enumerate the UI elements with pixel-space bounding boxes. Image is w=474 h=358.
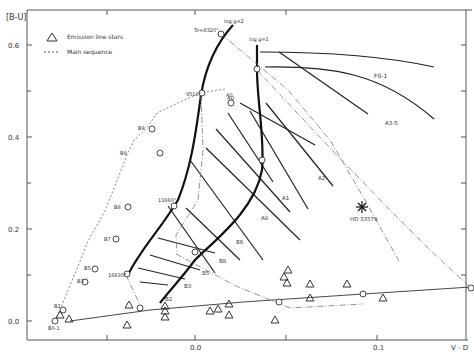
plot-frame	[27, 10, 472, 340]
svg-text:B6: B6	[236, 239, 244, 245]
svg-text:B8: B8	[114, 204, 121, 210]
y-tick-0.6: 0.6	[8, 42, 20, 50]
main-sequence-labels: B0-1 B2 B3 B5 B7 B8 B9 B9 A0	[48, 92, 233, 331]
x-tick-0.0: 0.0	[190, 344, 201, 352]
svg-text:B9: B9	[138, 125, 145, 131]
log-g1-curve	[160, 45, 263, 303]
svg-text:B8: B8	[219, 258, 227, 264]
svg-text:A0: A0	[261, 215, 269, 221]
svg-text:A0: A0	[226, 92, 233, 98]
svg-text:A3-5: A3-5	[385, 120, 398, 126]
svg-text:B3: B3	[77, 278, 84, 284]
svg-text:11660°: 11660°	[158, 197, 177, 203]
chart: [B-U] 0.6 0.4 0.2 0.0 0.0 0.1 V - D Emis…	[0, 0, 474, 358]
main-sequence-points	[52, 100, 234, 324]
y-tick-0.2: 0.2	[8, 226, 19, 234]
label-f0-1: F0-1	[374, 72, 387, 79]
svg-text:9510°: 9510°	[186, 91, 202, 97]
svg-text:B3: B3	[184, 283, 192, 289]
svg-text:Te=8320°: Te=8320°	[193, 27, 219, 33]
legend-emission-label: Emission line stars	[67, 33, 123, 40]
legend: Emission line stars Main sequence	[44, 33, 123, 56]
hd33579-label: HD 33579	[350, 216, 378, 222]
y-tick-0.4: 0.4	[8, 134, 20, 142]
svg-text:16830°: 16830°	[108, 272, 127, 278]
isogravity-labels: log g=2 log g=1 Te=8320° 9510° 11660° 16…	[108, 18, 269, 278]
svg-text:B9: B9	[120, 150, 127, 156]
legend-main-sequence-label: Main sequence	[67, 48, 112, 56]
svg-text:B7: B7	[104, 236, 111, 242]
curve-points	[124, 31, 474, 311]
dash-dot-lines	[126, 34, 471, 308]
svg-text:B5: B5	[84, 265, 91, 271]
emission-line-stars	[56, 266, 387, 328]
x-axis-label: V - D	[451, 344, 468, 352]
svg-text:B5: B5	[202, 270, 210, 276]
f-region-curves	[260, 52, 434, 119]
x-tick-0.1: 0.1	[373, 344, 384, 352]
main-sequence-line	[55, 89, 225, 321]
y-axis-label: [B-U]	[6, 13, 26, 22]
triangle-icon	[47, 33, 57, 41]
svg-text:B0-1: B0-1	[48, 325, 60, 331]
spectral-lines	[138, 103, 333, 285]
svg-text:B2: B2	[54, 303, 61, 309]
svg-text:log g=2: log g=2	[224, 18, 244, 25]
y-tick-0.0: 0.0	[8, 318, 19, 326]
svg-text:A2: A2	[318, 175, 325, 181]
svg-text:log g=1: log g=1	[249, 36, 269, 43]
svg-text:A1: A1	[282, 195, 289, 201]
